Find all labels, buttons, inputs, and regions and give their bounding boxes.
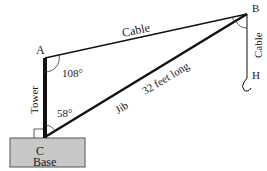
point-label-h: H <box>252 69 260 81</box>
hook-icon <box>243 78 252 91</box>
angle-label-c: 58° <box>57 107 72 119</box>
cable-side-label: Cable <box>252 32 264 58</box>
point-label-b: B <box>252 2 259 14</box>
base-label: Base <box>33 155 56 169</box>
angle-label-a: 108° <box>62 67 83 79</box>
angle-arc-b2 <box>236 21 247 28</box>
crane-diagram: A B C H 108° 58° Cable Cable Tower Jib 3… <box>0 0 267 171</box>
tower-label: Tower <box>28 86 40 114</box>
cable-top-label: Cable <box>121 20 151 40</box>
point-label-a: A <box>36 43 45 57</box>
jib-label: Jib <box>113 99 131 116</box>
